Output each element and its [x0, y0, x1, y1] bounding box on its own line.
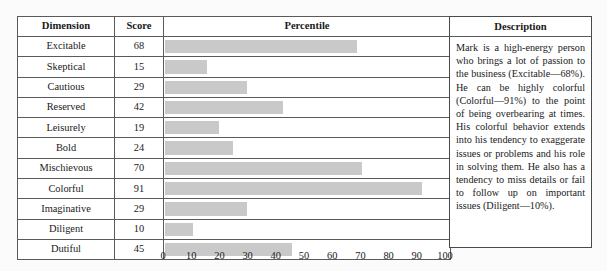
table-body: Excitable68Skeptical15Cautious29Reserved…	[18, 37, 451, 260]
axis-tick-label: 90	[412, 250, 422, 261]
axis-tick-label: 30	[242, 250, 252, 261]
cell-percentile-bar	[164, 219, 451, 239]
bar-track	[164, 57, 450, 76]
bar-track	[164, 179, 450, 198]
cell-dimension: Bold	[18, 138, 115, 158]
cell-percentile-bar	[164, 57, 451, 77]
bar-track	[164, 98, 450, 117]
percentile-bar	[165, 202, 247, 215]
axis-tick-label: 0	[160, 250, 165, 261]
description-text: Mark is a high-energy person who brings …	[450, 37, 591, 213]
axis-tick-label: 80	[383, 250, 393, 261]
cell-dimension: Excitable	[18, 37, 115, 57]
percentile-bar	[165, 223, 193, 236]
cell-dimension: Mischievous	[18, 158, 115, 178]
percentile-bar	[165, 40, 357, 53]
cell-score: 19	[115, 118, 164, 138]
bar-track	[164, 78, 450, 97]
bar-track	[164, 159, 450, 178]
axis-tick-label: 100	[437, 250, 453, 261]
table-row: Reserved42	[18, 97, 451, 117]
bar-track	[164, 220, 450, 239]
table-header-row: Dimension Score Percentile	[18, 17, 451, 37]
axis-tick-label: 10	[186, 250, 196, 261]
cell-score: 70	[115, 158, 164, 178]
cell-percentile-bar	[164, 118, 451, 138]
percentile-bar	[165, 121, 219, 134]
table-row: Colorful91	[18, 179, 451, 199]
table-row: Skeptical15	[18, 57, 451, 77]
cell-score: 91	[115, 179, 164, 199]
cell-dimension: Imaginative	[18, 199, 115, 219]
cell-dimension: Skeptical	[18, 57, 115, 77]
cell-score: 24	[115, 138, 164, 158]
cell-score: 42	[115, 97, 164, 117]
column-header-score: Score	[115, 17, 164, 37]
column-header-percentile: Percentile	[164, 17, 451, 37]
cell-dimension: Colorful	[18, 179, 115, 199]
cell-dimension: Cautious	[18, 77, 115, 97]
axis-tick-label: 40	[271, 250, 281, 261]
cell-percentile-bar	[164, 179, 451, 199]
column-header-dimension: Dimension	[18, 17, 115, 37]
bar-track	[164, 37, 450, 56]
bar-track	[164, 199, 450, 218]
cell-dimension: Leisurely	[18, 118, 115, 138]
cell-percentile-bar	[164, 77, 451, 97]
table-row: Bold24	[18, 138, 451, 158]
cell-dimension: Reserved	[18, 97, 115, 117]
personality-score-table: Dimension Score Percentile Excitable68Sk…	[17, 16, 451, 260]
cell-score: 29	[115, 77, 164, 97]
cell-percentile-bar	[164, 97, 451, 117]
cell-percentile-bar	[164, 199, 451, 219]
bar-track	[164, 138, 450, 157]
cell-score: 29	[115, 199, 164, 219]
cell-dimension: Diligent	[18, 219, 115, 239]
description-panel: Description Mark is a high-energy person…	[449, 16, 592, 248]
table-header: Dimension Score Percentile	[18, 17, 451, 37]
column-header-description: Description	[450, 17, 591, 37]
percentile-bar	[165, 162, 362, 175]
cell-score: 68	[115, 37, 164, 57]
cell-percentile-bar	[164, 37, 451, 57]
percentile-bar	[165, 141, 233, 154]
percentile-axis: 0102030405060708090100	[0, 250, 607, 270]
percentile-bar	[165, 182, 422, 195]
axis-tick-label: 70	[355, 250, 365, 261]
cell-score: 10	[115, 219, 164, 239]
table-row: Mischievous70	[18, 158, 451, 178]
bar-track	[164, 118, 450, 137]
table-row: Leisurely19	[18, 118, 451, 138]
table-row: Imaginative29	[18, 199, 451, 219]
cell-percentile-bar	[164, 138, 451, 158]
percentile-bar	[165, 81, 247, 94]
axis-tick-label: 20	[214, 250, 224, 261]
cell-score: 15	[115, 57, 164, 77]
percentile-bar	[165, 60, 207, 73]
axis-tick-label: 60	[327, 250, 337, 261]
table-row: Cautious29	[18, 77, 451, 97]
table-row: Diligent10	[18, 219, 451, 239]
axis-tick-label: 50	[299, 250, 309, 261]
percentile-bar	[165, 101, 283, 114]
table-row: Excitable68	[18, 37, 451, 57]
cell-percentile-bar	[164, 158, 451, 178]
